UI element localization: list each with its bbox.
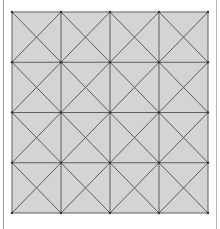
grid-vertex [207, 11, 209, 13]
grid-vertex [207, 61, 209, 63]
grid-vertex [158, 212, 160, 214]
grid-vertex [207, 212, 209, 214]
grid-vertex [109, 61, 111, 63]
grid-vertex [207, 162, 209, 164]
grid-vertex [158, 61, 160, 63]
grid-vertex [207, 111, 209, 113]
grid-vertex [109, 162, 111, 164]
grid-vertex [11, 162, 13, 164]
grid-vertex [109, 111, 111, 113]
grid-vertex [60, 61, 62, 63]
grid-vertex [60, 212, 62, 214]
grid-vertex [158, 11, 160, 13]
grid-vertex [109, 11, 111, 13]
diagonal-grid [0, 0, 220, 229]
grid-vertex [60, 162, 62, 164]
diagram-canvas [0, 0, 220, 229]
grid-vertex [158, 162, 160, 164]
grid-vertex [11, 111, 13, 113]
grid-vertex [60, 111, 62, 113]
grid-vertex [11, 212, 13, 214]
grid-vertex [158, 111, 160, 113]
grid-vertex [11, 61, 13, 63]
grid-vertex [11, 11, 13, 13]
grid-vertex [109, 212, 111, 214]
grid-vertex [60, 11, 62, 13]
